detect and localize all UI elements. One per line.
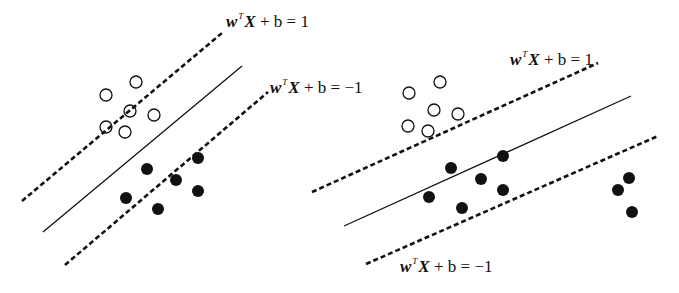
filled-circle-point xyxy=(141,163,153,175)
open-circle-point xyxy=(428,104,440,116)
label-x: X xyxy=(244,12,255,31)
label-x: X xyxy=(418,257,429,276)
open-circle-point xyxy=(452,108,464,120)
open-circle-point xyxy=(402,120,414,132)
filled-circle-point xyxy=(475,173,487,185)
label-w: w xyxy=(400,257,411,276)
label-w: w xyxy=(226,12,237,31)
filled-circle-point xyxy=(612,184,624,196)
right-panel xyxy=(312,63,658,264)
label-w: w xyxy=(510,50,521,69)
lower-margin-line xyxy=(65,92,268,265)
filled-circle-point xyxy=(497,150,509,162)
open-circle-point xyxy=(119,126,131,138)
filled-circle-point xyxy=(192,152,204,164)
open-circle-point xyxy=(403,87,415,99)
decision-boundary-line xyxy=(344,96,631,226)
filled-circle-point xyxy=(626,206,638,218)
right-upper-margin-label: wTX + b = 1 xyxy=(510,50,593,68)
label-x: X xyxy=(528,50,539,69)
open-circle-point xyxy=(422,125,434,137)
label-transpose: T xyxy=(238,11,243,21)
open-circle-point xyxy=(434,76,446,88)
open-circle-point xyxy=(148,109,160,121)
filled-circle-point xyxy=(445,162,457,174)
filled-circle-point xyxy=(497,184,509,196)
label-rest: + b = 1 xyxy=(256,12,309,31)
filled-circle-point xyxy=(152,203,164,215)
filled-circle-point xyxy=(623,172,635,184)
label-transpose: T xyxy=(282,77,287,87)
filled-circle-point xyxy=(456,202,468,214)
filled-circle-point xyxy=(423,191,435,203)
lower-margin-line xyxy=(366,136,658,264)
filled-circle-point xyxy=(192,185,204,197)
label-transpose: T xyxy=(412,256,417,266)
label-w: w xyxy=(270,78,281,97)
decision-boundary-line xyxy=(43,66,242,232)
svm-margin-diagram xyxy=(0,0,679,293)
upper-margin-line xyxy=(22,33,222,201)
right-lower-margin-label: wTX + b = −1 xyxy=(400,257,492,275)
label-rest: + b = −1 xyxy=(300,78,363,97)
filled-circle-point xyxy=(120,192,132,204)
left-lower-margin-label: wTX + b = −1 xyxy=(270,78,362,96)
left-panel xyxy=(22,33,268,265)
label-transpose: T xyxy=(522,49,527,59)
open-circle-point xyxy=(130,76,142,88)
label-rest: + b = −1 xyxy=(430,257,493,276)
open-circle-point xyxy=(100,89,112,101)
label-x: X xyxy=(288,78,299,97)
filled-circle-point xyxy=(170,174,182,186)
left-upper-margin-label: wTX + b = 1 xyxy=(226,12,309,30)
label-rest: + b = 1 xyxy=(540,50,593,69)
